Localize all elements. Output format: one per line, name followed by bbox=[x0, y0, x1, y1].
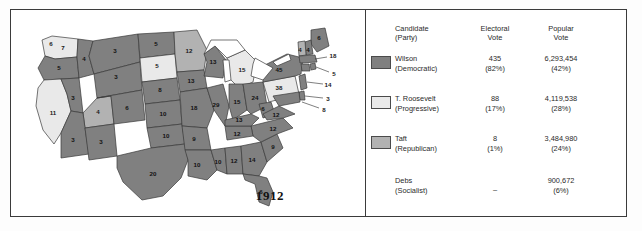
panel-divider bbox=[365, 9, 366, 217]
swatch-wilson bbox=[371, 56, 391, 69]
popular-value: 900,672 bbox=[548, 176, 575, 185]
electoral-cell: 435 (82%) bbox=[471, 54, 519, 73]
svg-text:5: 5 bbox=[154, 40, 158, 47]
svg-text:12: 12 bbox=[270, 125, 277, 132]
swatch-roosevelt bbox=[371, 96, 391, 109]
svg-text:14: 14 bbox=[249, 156, 256, 163]
svg-text:12: 12 bbox=[273, 111, 280, 118]
svg-text:18: 18 bbox=[191, 104, 198, 111]
svg-text:4: 4 bbox=[306, 46, 310, 53]
candidate-cell: Debs (Socialist) bbox=[395, 176, 427, 195]
results-table: Candidate (Party) Electoral Vote Popular… bbox=[371, 10, 627, 216]
electoral-pct: (82%) bbox=[471, 64, 519, 74]
header-candidate-line2: (Party) bbox=[395, 33, 429, 42]
electoral-cell: 8 (1%) bbox=[471, 134, 519, 153]
svg-text:3: 3 bbox=[326, 95, 330, 102]
svg-text:7: 7 bbox=[61, 44, 65, 51]
candidate-name: Debs bbox=[395, 176, 412, 185]
svg-text:6: 6 bbox=[317, 34, 321, 41]
header-electoral-line2: Vote bbox=[471, 33, 519, 42]
electoral-value: – bbox=[493, 185, 497, 194]
table-row: T. Roosevelt (Progressive) 88 (17%) 4,11… bbox=[371, 94, 627, 124]
popular-pct: (6%) bbox=[529, 186, 593, 196]
header-candidate-line1: Candidate bbox=[395, 24, 429, 33]
year-caption: 1912 bbox=[235, 188, 305, 204]
svg-text:4: 4 bbox=[96, 108, 100, 115]
svg-text:4: 4 bbox=[298, 46, 302, 53]
popular-cell: 6,293,454 (42%) bbox=[529, 54, 593, 73]
state-wa bbox=[42, 36, 78, 59]
table-row: Taft (Republican) 8 (1%) 3,484,980 (24%) bbox=[371, 134, 627, 164]
popular-value: 6,293,454 bbox=[545, 54, 578, 63]
svg-text:20: 20 bbox=[150, 170, 157, 177]
svg-text:29: 29 bbox=[213, 101, 220, 108]
popular-pct: (24%) bbox=[529, 144, 593, 154]
header-electoral-line1: Electoral bbox=[481, 24, 510, 33]
candidate-party: (Republican) bbox=[395, 144, 437, 154]
state-ma bbox=[299, 55, 317, 63]
svg-text:15: 15 bbox=[234, 98, 241, 105]
svg-text:5: 5 bbox=[332, 70, 336, 77]
svg-text:38: 38 bbox=[276, 84, 283, 91]
svg-text:10: 10 bbox=[160, 110, 167, 117]
popular-value: 3,484,980 bbox=[545, 134, 578, 143]
candidate-party: (Socialist) bbox=[395, 186, 427, 196]
svg-text:14: 14 bbox=[325, 81, 332, 88]
map-svg: 6 7 5 11 3 4 3 3 4 3 3 6 5 5 8 10 10 20 … bbox=[11, 10, 364, 216]
svg-text:45: 45 bbox=[276, 66, 283, 73]
header-candidate: Candidate (Party) bbox=[395, 24, 429, 43]
candidate-party: (Progressive) bbox=[395, 104, 439, 114]
svg-text:12: 12 bbox=[234, 130, 241, 137]
svg-text:6: 6 bbox=[261, 105, 265, 112]
svg-text:12: 12 bbox=[186, 47, 193, 54]
svg-text:24: 24 bbox=[252, 94, 259, 101]
svg-text:8: 8 bbox=[322, 106, 326, 113]
svg-text:13: 13 bbox=[236, 116, 243, 123]
state-ct bbox=[301, 64, 310, 71]
header-popular-line1: Popular bbox=[548, 24, 573, 33]
electoral-pct: (17%) bbox=[471, 104, 519, 114]
table-row: Debs (Socialist) – 900,672 (6%) bbox=[371, 176, 627, 206]
election-map-figure: 6 7 5 11 3 4 3 3 4 3 3 6 5 5 8 10 10 20 … bbox=[0, 0, 642, 231]
svg-text:13: 13 bbox=[188, 77, 195, 84]
header-electoral-vote: Electoral Vote bbox=[471, 24, 519, 43]
electoral-cell: 88 (17%) bbox=[471, 94, 519, 113]
electoral-value: 88 bbox=[491, 94, 499, 103]
svg-text:4: 4 bbox=[82, 55, 86, 62]
popular-pct: (28%) bbox=[529, 104, 593, 114]
svg-text:10: 10 bbox=[215, 158, 222, 165]
state-ar bbox=[182, 126, 211, 150]
state-nj bbox=[299, 74, 307, 90]
popular-cell: 4,119,538 (28%) bbox=[529, 94, 593, 113]
svg-text:3: 3 bbox=[99, 138, 103, 145]
svg-text:10: 10 bbox=[194, 161, 201, 168]
candidate-cell: T. Roosevelt (Progressive) bbox=[395, 94, 439, 113]
svg-text:6: 6 bbox=[49, 40, 53, 47]
table-row: Wilson (Democratic) 435 (82%) 6,293,454 … bbox=[371, 54, 627, 84]
svg-text:3: 3 bbox=[71, 94, 75, 101]
electoral-cell: – bbox=[471, 185, 519, 195]
svg-text:11: 11 bbox=[50, 109, 57, 116]
svg-text:13: 13 bbox=[210, 58, 217, 65]
electoral-value: 8 bbox=[493, 134, 497, 143]
svg-text:3: 3 bbox=[71, 136, 75, 143]
swatch-taft bbox=[371, 136, 391, 149]
svg-text:3: 3 bbox=[114, 73, 118, 80]
svg-text:18: 18 bbox=[330, 52, 337, 59]
candidate-cell: Taft (Republican) bbox=[395, 134, 437, 153]
svg-text:5: 5 bbox=[57, 64, 61, 71]
svg-text:10: 10 bbox=[163, 132, 170, 139]
candidate-name: Wilson bbox=[395, 54, 417, 63]
candidate-name: Taft bbox=[395, 134, 407, 143]
svg-text:15: 15 bbox=[239, 66, 246, 73]
faint-bottom-caption bbox=[430, 220, 590, 229]
svg-text:6: 6 bbox=[125, 104, 129, 111]
svg-text:9: 9 bbox=[271, 143, 275, 150]
electoral-pct: (1%) bbox=[471, 144, 519, 154]
svg-text:5: 5 bbox=[155, 62, 159, 69]
candidate-name: T. Roosevelt bbox=[395, 94, 436, 103]
popular-value: 4,119,538 bbox=[545, 94, 577, 103]
header-popular-vote: Popular Vote bbox=[531, 24, 591, 43]
svg-text:12: 12 bbox=[231, 157, 238, 164]
popular-cell: 3,484,980 (24%) bbox=[529, 134, 593, 153]
